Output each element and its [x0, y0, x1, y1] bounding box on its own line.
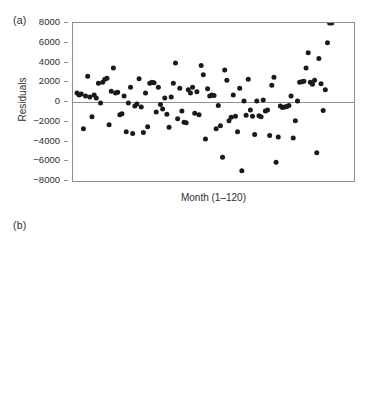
data-point	[107, 122, 112, 127]
data-point	[241, 99, 246, 104]
panel-a-scatter-points	[73, 23, 354, 181]
data-point	[152, 80, 157, 85]
data-point	[261, 98, 266, 103]
y-tick-mark	[64, 180, 68, 181]
data-point	[246, 77, 251, 82]
data-point	[160, 106, 165, 111]
panel-b-toll-revenue: (b) Toll revenue 70,00060,00050,00040,00…	[0, 208, 378, 419]
y-tick-mark	[64, 121, 68, 122]
data-point	[98, 100, 103, 105]
y-tick-mark	[64, 141, 68, 142]
data-point	[248, 107, 253, 112]
data-point	[267, 133, 272, 138]
data-point	[222, 67, 227, 72]
data-point	[244, 113, 249, 118]
data-point	[192, 111, 197, 116]
data-point	[237, 86, 242, 91]
data-point	[250, 114, 255, 119]
data-point	[197, 112, 202, 117]
panel-a-x-axis-title: Month (1–120)	[72, 192, 355, 203]
data-point	[304, 65, 309, 70]
y-tick-mark	[64, 81, 68, 82]
data-point	[169, 95, 174, 100]
panel-a-plot-area	[72, 22, 355, 182]
data-point	[306, 50, 311, 55]
data-point	[143, 91, 148, 96]
data-point	[173, 60, 178, 65]
panel-a-residuals: (a) Residuals 80006000400020000−2000−400…	[0, 0, 378, 208]
data-point	[175, 116, 180, 121]
data-point	[83, 94, 88, 99]
data-point	[85, 74, 90, 79]
data-point	[229, 115, 234, 120]
figure-two-panel-scatter: (a) Residuals 80006000400020000−2000−400…	[0, 0, 378, 419]
data-point	[167, 125, 172, 130]
y-tick-label: −6000	[33, 155, 60, 165]
data-point	[81, 126, 86, 131]
data-point	[104, 76, 109, 81]
data-point	[179, 108, 184, 113]
data-point	[233, 114, 238, 119]
data-point	[184, 120, 189, 125]
y-tick-label: −4000	[33, 136, 60, 146]
data-point	[201, 72, 206, 77]
data-point	[124, 129, 129, 134]
data-point	[274, 160, 279, 165]
data-point	[295, 99, 300, 104]
data-point	[216, 103, 221, 108]
data-point	[89, 114, 94, 119]
data-point	[312, 78, 317, 83]
data-point	[220, 155, 225, 160]
data-point	[239, 168, 244, 173]
data-point	[194, 89, 199, 94]
data-point	[321, 108, 326, 113]
data-point	[158, 102, 163, 107]
data-point	[269, 83, 274, 88]
data-point	[190, 85, 195, 90]
y-tick-mark	[64, 101, 68, 102]
data-point	[164, 112, 169, 117]
data-point	[291, 136, 296, 141]
y-tick-label: 6000	[39, 37, 60, 47]
y-tick-label: 2000	[39, 76, 60, 86]
data-point	[145, 124, 150, 129]
data-point	[252, 132, 257, 137]
data-point	[119, 111, 124, 116]
data-point	[94, 96, 99, 101]
data-point	[289, 94, 294, 99]
data-point	[177, 86, 182, 91]
data-point	[199, 63, 204, 68]
data-point	[122, 94, 127, 99]
data-point	[218, 123, 223, 128]
data-point	[203, 137, 208, 142]
data-point	[154, 109, 159, 114]
data-point	[254, 99, 259, 104]
data-point	[137, 76, 142, 81]
data-point	[128, 85, 133, 90]
y-tick-mark	[64, 42, 68, 43]
data-point	[293, 118, 298, 123]
data-point	[171, 81, 176, 86]
panel-b-label: (b)	[13, 219, 26, 231]
data-point	[319, 81, 324, 86]
data-point	[314, 150, 319, 155]
data-point	[87, 95, 92, 100]
data-point	[134, 101, 139, 106]
y-tick-mark	[64, 62, 68, 63]
data-point	[224, 78, 229, 83]
data-point	[235, 129, 240, 134]
data-point	[188, 91, 193, 96]
data-point	[212, 93, 217, 98]
y-tick-label: −8000	[33, 175, 60, 185]
data-point	[156, 85, 161, 90]
data-point	[109, 89, 114, 94]
data-point	[162, 96, 167, 101]
data-point	[126, 100, 131, 105]
data-point	[231, 93, 236, 98]
data-point	[323, 87, 328, 92]
panel-a-y-axis-ticks: 80006000400020000−2000−4000−6000−8000	[0, 22, 68, 182]
data-point	[96, 81, 101, 86]
y-tick-label: 4000	[39, 57, 60, 67]
data-point	[325, 40, 330, 45]
data-point	[79, 92, 84, 97]
